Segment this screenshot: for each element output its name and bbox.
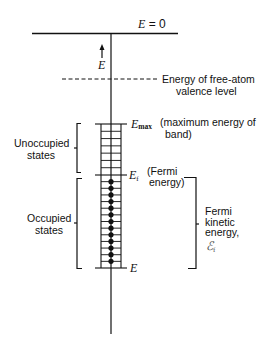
energy-arrow-icon [100,44,105,58]
energy-band-ladder [101,124,121,268]
occupied-bracket [74,179,82,269]
fermi-level-label: Ef [128,168,139,183]
fermi-ke-line3: energy, [205,226,239,238]
unoccupied-label-line2: states [27,149,55,161]
fermi-desc-line2: energy) [149,176,185,188]
unoccupied-label-line1: Unoccupied [14,137,70,149]
vacuum-level-label: E = 0 [137,17,166,31]
occupied-state-dot [108,199,113,204]
occupied-state-dot [108,226,113,231]
energy-axis-label: E [97,58,106,72]
occupied-state-dot [108,179,113,184]
unoccupied-bracket [74,124,81,173]
emax-label: Emax [130,117,152,131]
occupied-label-line2: states [35,224,63,236]
free-atom-label-line1: Energy of free-atom [162,73,255,85]
emax-desc-line1: (maximum energy of [160,116,256,128]
occupied-state-dot [108,212,113,217]
band-bottom-label: E [129,261,138,275]
occupied-state-dot [108,186,113,191]
occupied-state-dot [108,252,113,257]
occupied-label-line1: Occupied [27,212,72,224]
fermi-ke-symbol: ℰf [206,239,216,254]
fermi-kinetic-energy-bracket [184,178,199,269]
occupied-state-dot [108,245,113,250]
free-atom-label-line2: valence level [176,85,237,97]
occupied-state-dot [108,259,113,264]
occupied-state-dot [108,206,113,211]
emax-desc-line2: band) [165,128,192,140]
occupied-state-dot [108,192,113,197]
energy-band-diagram: E = 0 E Energy of free-atom valence leve… [0,0,263,349]
occupied-state-dot [108,219,113,224]
occupied-state-dot [108,232,113,237]
occupied-state-dot [108,239,113,244]
